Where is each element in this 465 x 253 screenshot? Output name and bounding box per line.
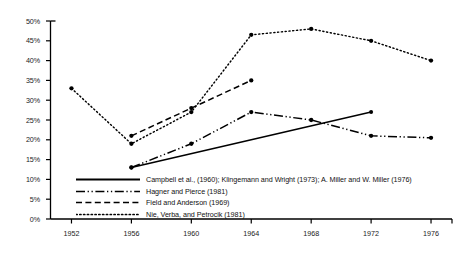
legend-item: Field and Anderson (1969) bbox=[76, 197, 406, 209]
legend-swatch-dashed bbox=[76, 198, 140, 207]
x-tick-label: 1964 bbox=[231, 229, 271, 238]
y-tick-label: 5% bbox=[14, 195, 40, 204]
legend-item: Hagner and Pierce (1981) bbox=[76, 186, 406, 198]
series-marker bbox=[69, 86, 73, 90]
series-marker bbox=[249, 33, 253, 37]
legend-item: Campbell et al., (1960); Klingemann and … bbox=[76, 174, 406, 186]
y-tick-label: 40% bbox=[14, 56, 40, 65]
series-marker bbox=[129, 165, 133, 169]
series-marker bbox=[249, 110, 253, 114]
series-marker bbox=[369, 39, 373, 43]
series-marker bbox=[369, 134, 373, 138]
series-marker bbox=[129, 142, 133, 146]
series-marker bbox=[249, 78, 253, 82]
x-tick-label: 1976 bbox=[411, 229, 451, 238]
series-marker bbox=[189, 142, 193, 146]
chart-series-group bbox=[69, 27, 433, 170]
legend-swatch-solid bbox=[76, 175, 140, 184]
y-tick-label: 25% bbox=[14, 116, 40, 125]
legend-swatch-dotted bbox=[76, 210, 140, 219]
legend-label: Hagner and Pierce (1981) bbox=[146, 187, 228, 196]
series-marker bbox=[309, 118, 313, 122]
series-marker bbox=[189, 110, 193, 114]
series-line-0 bbox=[131, 112, 371, 167]
x-tick-label: 1956 bbox=[111, 229, 151, 238]
series-marker bbox=[429, 136, 433, 140]
y-tick-label: 0% bbox=[14, 215, 40, 224]
x-tick-label: 1968 bbox=[291, 229, 331, 238]
legend-label: Nie, Verba, and Petrocik (1981) bbox=[146, 210, 245, 219]
series-marker bbox=[309, 27, 313, 31]
y-tick-label: 45% bbox=[14, 36, 40, 45]
chart-container: 0%5%10%15%20%25%30%35%40%45%50% 19521956… bbox=[0, 0, 465, 253]
series-line-3 bbox=[71, 29, 431, 144]
y-tick-label: 30% bbox=[14, 96, 40, 105]
legend-label: Campbell et al., (1960); Klingemann and … bbox=[146, 175, 412, 184]
series-marker bbox=[129, 134, 133, 138]
legend-label: Field and Anderson (1969) bbox=[146, 198, 229, 207]
x-tick-label: 1952 bbox=[51, 229, 91, 238]
series-line-1 bbox=[131, 112, 431, 167]
y-tick-label: 50% bbox=[14, 17, 40, 26]
x-tick-label: 1972 bbox=[351, 229, 391, 238]
series-marker bbox=[369, 110, 373, 114]
chart-legend: Campbell et al., (1960); Klingemann and … bbox=[76, 174, 406, 220]
legend-item: Nie, Verba, and Petrocik (1981) bbox=[76, 209, 406, 221]
y-tick-label: 35% bbox=[14, 76, 40, 85]
series-marker bbox=[429, 58, 433, 62]
x-tick-label: 1960 bbox=[171, 229, 211, 238]
legend-swatch-dash-dot-dot bbox=[76, 187, 140, 196]
y-tick-label: 15% bbox=[14, 155, 40, 164]
y-tick-label: 10% bbox=[14, 175, 40, 184]
y-tick-label: 20% bbox=[14, 135, 40, 144]
